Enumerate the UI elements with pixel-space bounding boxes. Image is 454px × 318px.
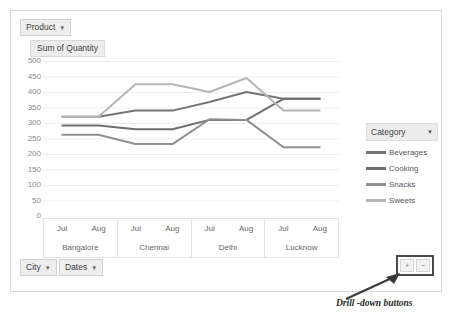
- chevron-down-icon: ▼: [59, 25, 65, 31]
- legend-item-label: Sweets: [389, 196, 415, 205]
- y-axis: 500450400350300250200150100500: [11, 61, 41, 216]
- product-filter-label: Product: [26, 23, 55, 32]
- y-axis-tick: 500: [28, 57, 41, 65]
- x-axis-month-row: JulAug: [44, 219, 117, 238]
- legend-items: BeveragesCookingSnacksSweets: [366, 148, 438, 205]
- dates-filter-button[interactable]: Dates ▼: [59, 259, 103, 276]
- legend-swatch-icon: [366, 183, 386, 186]
- dates-filter-label: Dates: [65, 263, 87, 272]
- legend-item-label: Cooking: [389, 164, 418, 173]
- drill-up-button[interactable]: +: [400, 259, 414, 272]
- x-axis-city-group[interactable]: JulAugBangalore: [43, 218, 117, 258]
- x-axis-city-group[interactable]: JulAugDelhi: [191, 218, 265, 258]
- y-axis-tick: 250: [28, 135, 41, 143]
- legend-item[interactable]: Sweets: [366, 196, 438, 205]
- category-legend-filter-button[interactable]: Category ▼: [366, 123, 438, 141]
- y-axis-tick: 400: [28, 88, 41, 96]
- chevron-down-icon: ▼: [91, 265, 97, 271]
- legend-item-label: Beverages: [389, 148, 427, 157]
- annotation-label: Drill -down buttons: [336, 298, 413, 308]
- series-line[interactable]: [62, 78, 321, 117]
- x-axis: JulAugBangaloreJulAugChennaiJulAugDelhiJ…: [43, 218, 339, 258]
- x-axis-month-label[interactable]: Jul: [118, 219, 154, 238]
- legend-swatch-icon: [366, 167, 386, 170]
- product-filter-button[interactable]: Product ▼: [20, 19, 71, 36]
- city-filter-button[interactable]: City ▼: [20, 259, 57, 276]
- x-axis-month-label[interactable]: Aug: [228, 219, 264, 238]
- y-axis-tick: 450: [28, 73, 41, 81]
- legend-item[interactable]: Cooking: [366, 164, 438, 173]
- pivot-chart-card: Product ▼ Sum of Quantity 50045040035030…: [10, 10, 442, 292]
- chart-svg: [43, 61, 339, 216]
- legend-item[interactable]: Beverages: [366, 148, 438, 157]
- y-axis-tick: 200: [28, 150, 41, 158]
- legend-swatch-icon: [366, 199, 386, 202]
- legend-item[interactable]: Snacks: [366, 180, 438, 189]
- value-field-button[interactable]: Sum of Quantity: [30, 40, 105, 57]
- y-axis-tick: 50: [32, 197, 41, 205]
- chevron-down-icon: ▼: [45, 265, 51, 271]
- y-axis-tick: 0: [37, 212, 41, 220]
- legend-swatch-icon: [366, 151, 386, 154]
- legend-item-label: Snacks: [389, 180, 415, 189]
- y-axis-tick: 350: [28, 104, 41, 112]
- x-axis-month-label[interactable]: Jul: [44, 219, 80, 238]
- y-axis-tick: 100: [28, 181, 41, 189]
- drill-down-button[interactable]: −: [416, 259, 430, 272]
- x-axis-month-label[interactable]: Aug: [154, 219, 190, 238]
- y-axis-tick: 150: [28, 166, 41, 174]
- x-axis-month-row: JulAug: [265, 219, 338, 238]
- x-axis-month-row: JulAug: [118, 219, 191, 238]
- legend: Category ▼ BeveragesCookingSnacksSweets: [366, 123, 438, 205]
- chevron-down-icon: ▼: [427, 129, 433, 135]
- x-axis-month-label[interactable]: Jul: [192, 219, 228, 238]
- x-axis-month-label[interactable]: Aug: [80, 219, 116, 238]
- x-axis-month-row: JulAug: [192, 219, 265, 238]
- y-axis-tick: 300: [28, 119, 41, 127]
- cropped-text-top: [0, 0, 454, 7]
- x-axis-city-group[interactable]: JulAugChennai: [117, 218, 191, 258]
- x-axis-month-label[interactable]: Jul: [265, 219, 301, 238]
- x-axis-city-group[interactable]: JulAugLucknow: [264, 218, 339, 258]
- legend-header-label: Category: [371, 127, 406, 137]
- plot-area: [43, 61, 339, 216]
- series-line[interactable]: [62, 92, 321, 117]
- city-filter-label: City: [26, 263, 41, 272]
- x-axis-month-label[interactable]: Aug: [302, 219, 338, 238]
